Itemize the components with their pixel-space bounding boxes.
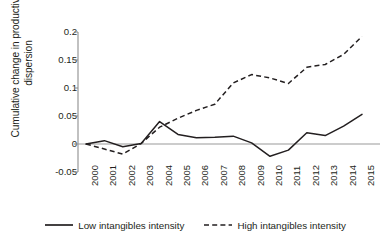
legend-item-high-intangibles: High intangibles intensity: [204, 220, 345, 231]
chart-legend: Low intangibles intensity High intangibl…: [0, 215, 391, 235]
y-axis-ticks: [74, 32, 78, 172]
legend-label-low-intangibles: Low intangibles intensity: [78, 220, 184, 231]
legend-label-high-intangibles: High intangibles intensity: [237, 220, 345, 231]
legend-item-low-intangibles: Low intangibles intensity: [45, 220, 184, 231]
legend-swatch-solid-line-icon: [45, 220, 73, 230]
legend-swatch-dashed-line-icon: [204, 220, 232, 230]
chart-figure: Cumulative change in productivity disper…: [0, 0, 391, 241]
series-line-low-intangibles: [86, 114, 362, 156]
plot-area: [0, 0, 391, 241]
